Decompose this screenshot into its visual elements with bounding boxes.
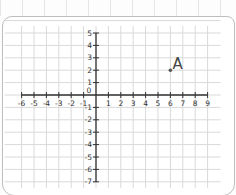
y-tick-label: 5 bbox=[87, 29, 92, 38]
y-tick-label: 2 bbox=[87, 66, 92, 75]
y-tick-label: -6 bbox=[85, 165, 93, 174]
x-tick-label: 3 bbox=[131, 99, 136, 108]
x-tick-label: -6 bbox=[18, 99, 26, 108]
origin-label: 0 bbox=[87, 86, 92, 95]
x-tick-label: 9 bbox=[205, 99, 210, 108]
x-tick-label: 5 bbox=[156, 99, 161, 108]
coordinate-plane: -6-5-4-3-2-112345678954321-1-2-3-4-5-6-7… bbox=[0, 0, 236, 195]
y-tick-label: -2 bbox=[85, 115, 93, 124]
y-tick-label: -5 bbox=[85, 153, 93, 162]
x-tick-label: -3 bbox=[55, 99, 63, 108]
y-tick-label: -4 bbox=[85, 140, 93, 149]
y-tick-label: 4 bbox=[87, 41, 92, 50]
x-tick-label: 2 bbox=[118, 99, 123, 108]
x-tick-label: 1 bbox=[106, 99, 111, 108]
x-tick-label: -2 bbox=[67, 99, 75, 108]
y-tick-label: -1 bbox=[85, 103, 93, 112]
y-tick-label: -3 bbox=[85, 128, 93, 137]
x-tick-label: 7 bbox=[180, 99, 185, 108]
graph-paper: -6-5-4-3-2-112345678954321-1-2-3-4-5-6-7… bbox=[0, 0, 236, 195]
y-tick-label: -7 bbox=[85, 177, 93, 186]
y-tick-label: 3 bbox=[87, 53, 92, 62]
x-tick-label: 8 bbox=[193, 99, 198, 108]
x-tick-label: -4 bbox=[43, 99, 51, 108]
point-label: A bbox=[172, 55, 183, 73]
x-tick-label: -5 bbox=[30, 99, 38, 108]
x-tick-label: 4 bbox=[143, 99, 148, 108]
x-tick-label: 6 bbox=[168, 99, 173, 108]
